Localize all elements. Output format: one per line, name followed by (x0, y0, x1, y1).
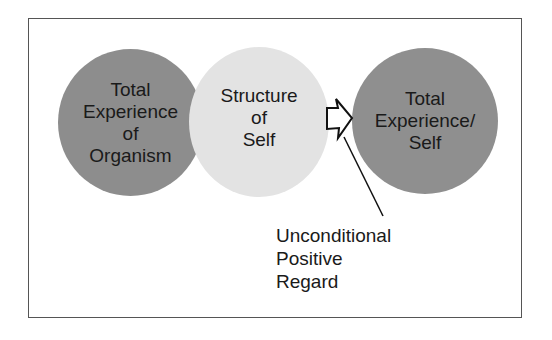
hollow-arrow-icon (327, 99, 352, 138)
annotation-unconditional-positive-regard: Unconditional Positive Regard (276, 224, 391, 293)
annotation-line: Positive (276, 247, 391, 270)
annotation-line: Unconditional (276, 224, 391, 247)
annotation-line: Regard (276, 270, 391, 293)
annotation-pointer-line (344, 137, 383, 216)
